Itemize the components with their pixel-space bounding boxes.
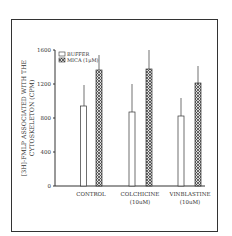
svg-text:CONTROL: CONTROL (76, 191, 106, 197)
svg-text:MICA (1μM): MICA (1μM) (67, 57, 99, 64)
svg-text:1200: 1200 (37, 81, 51, 87)
y-axis-label: [3H]-FMLP ASSOCIATED WITH THE (20, 59, 27, 176)
legend: BUFFER MICA (1μM) (59, 51, 99, 64)
svg-text:0: 0 (48, 183, 52, 189)
svg-text:1600: 1600 (37, 47, 51, 53)
svg-text:400: 400 (41, 149, 52, 155)
svg-text:COLCHICINE: COLCHICINE (121, 191, 160, 197)
y-ticks: 0 400 800 1200 1600 (37, 47, 55, 189)
bar-group-control (81, 55, 103, 186)
x-tick-labels: CONTROL COLCHICINE (10uM) VINBLASTINE (1… (76, 191, 210, 205)
svg-text:(10uM): (10uM) (180, 199, 200, 205)
y-axis-label-2: CYTOSKELETON (CPM) (28, 80, 35, 157)
svg-text:VINBLASTINE: VINBLASTINE (168, 191, 210, 197)
bar-group-colchicine (129, 50, 152, 186)
svg-text:(10uM): (10uM) (130, 199, 150, 205)
bar-group-vinblastine (178, 66, 201, 186)
bar-chart: [3H]-FMLP ASSOCIATED WITH THE CYTOSKELET… (0, 0, 232, 236)
svg-text:800: 800 (41, 115, 52, 121)
